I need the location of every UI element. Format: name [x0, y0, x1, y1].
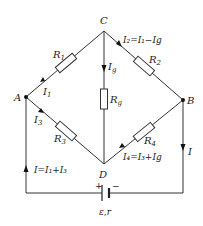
arrow-ig-icon	[102, 65, 107, 72]
node-a-label: A	[13, 92, 21, 103]
r2-label: R2	[148, 54, 162, 67]
node-b-label: B	[186, 95, 194, 106]
node-d-label: D	[98, 169, 107, 180]
r4-label: R4	[143, 135, 156, 148]
battery-plus-label: +	[95, 181, 103, 191]
ig-label: Ig	[107, 61, 117, 74]
battery-minus-label: −	[112, 181, 120, 191]
i-right-label: I	[187, 146, 193, 157]
battery-symbol	[102, 185, 109, 201]
arrow-i-left-icon	[24, 165, 29, 172]
i1-label: I1	[42, 86, 51, 99]
battery-emf-label: ε,r	[99, 207, 112, 217]
i2-equation: I₂=I₁−Ig	[122, 35, 162, 45]
arrow-i3-icon	[38, 108, 44, 113]
node-b-dot	[181, 98, 185, 102]
node-a-dot	[24, 95, 28, 99]
wheatstone-bridge-circuit: C A B D R1 R2 R3 R4 Rg I1 Ig I3 I₂=I₁−Ig…	[0, 0, 203, 226]
node-c-label: C	[100, 15, 108, 26]
arrow-i2-icon	[116, 40, 122, 47]
i3-label: I3	[33, 114, 43, 127]
arrow-i-right-icon	[181, 144, 186, 151]
r1-label: R1	[52, 49, 65, 62]
i-total-equation: I=I₁+I₃	[33, 165, 67, 175]
i4-equation: I₄=I₃+Ig	[122, 152, 162, 162]
rg-label: Rg	[109, 94, 123, 107]
resistor-rg	[101, 89, 108, 109]
